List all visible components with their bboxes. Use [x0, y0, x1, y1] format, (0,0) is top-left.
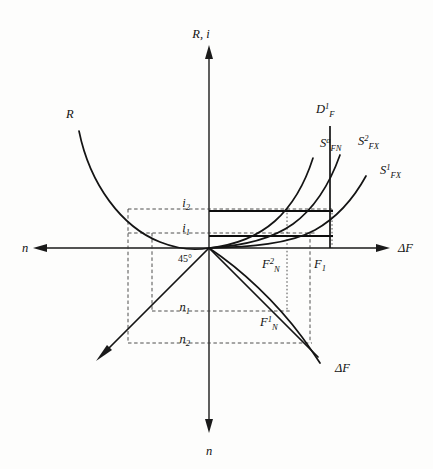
curve-label-D1F: D1F: [315, 101, 335, 119]
axis-label-horizontal-left: n: [22, 241, 28, 255]
horizontal-axis-left-arrow-icon: [33, 244, 47, 252]
axis-label-vertical-top: R, i: [191, 27, 210, 41]
curve-label-S2FX: S2FX: [358, 133, 380, 151]
curve-S2FX: [209, 155, 340, 248]
curve-SaFN: [209, 158, 313, 248]
value-label-i1: i1: [182, 221, 190, 237]
value-label-n2: n2: [179, 332, 190, 348]
vertical-axis-bottom-arrow-icon: [205, 419, 213, 433]
diagram-svg: R, i n ΔF n 45° R D1F SaFN S2FX S1FX: [0, 0, 433, 469]
horizontal-axis-right-arrow-icon: [376, 244, 390, 252]
value-label-n1: n1: [179, 300, 190, 316]
line-third-quadrant-ray: [107, 248, 209, 350]
vertical-axis-top-arrow-icon: [205, 45, 213, 59]
curve-label-SaFN: SaFN: [320, 135, 343, 153]
curve-label-deltaF: ΔF: [334, 361, 350, 375]
angle-label-45deg: 45°: [178, 253, 192, 264]
curve-group: [79, 126, 366, 363]
label-group: R, i n ΔF n 45° R D1F SaFN S2FX S1FX: [22, 27, 413, 458]
value-label-i2: i2: [182, 196, 190, 212]
value-label-F1: F1: [313, 257, 326, 273]
figure-canvas: R, i n ΔF n 45° R D1F SaFN S2FX S1FX: [0, 0, 433, 469]
guide-line-group: [128, 209, 332, 343]
value-label-F1N: F1N: [259, 314, 279, 332]
value-label-F2N: F2N: [261, 256, 281, 274]
axis-label-horizontal-right: ΔF: [397, 241, 413, 255]
curve-label-S1FX: S1FX: [380, 162, 402, 180]
curve-label-R: R: [65, 107, 74, 121]
axis-label-vertical-bottom: n: [206, 444, 212, 458]
